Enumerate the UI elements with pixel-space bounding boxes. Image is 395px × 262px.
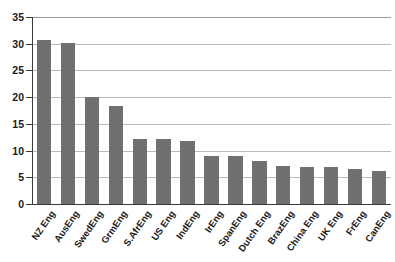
bar bbox=[348, 169, 362, 204]
y-tick-label: 0 bbox=[0, 199, 24, 210]
bar bbox=[252, 161, 266, 204]
bar bbox=[37, 40, 51, 204]
bar bbox=[372, 171, 386, 204]
bar bbox=[300, 167, 314, 204]
bar bbox=[276, 166, 290, 204]
y-tick-label: 10 bbox=[0, 145, 24, 156]
y-tick-label: 25 bbox=[0, 65, 24, 76]
y-tick-label: 30 bbox=[0, 38, 24, 49]
cropped-title-remnant bbox=[0, 0, 395, 6]
y-tick-label: 15 bbox=[0, 119, 24, 130]
bar-chart: 05101520253035 NZ EngAusEngSwedEngGrmEng… bbox=[0, 0, 395, 262]
x-tick-label: IndEng bbox=[174, 209, 200, 241]
x-axis-labels: NZ EngAusEngSwedEngGrmEngS.AfrEngUS EngI… bbox=[32, 205, 391, 262]
bar bbox=[61, 43, 75, 204]
bar bbox=[204, 156, 218, 204]
bar bbox=[133, 139, 147, 204]
bar bbox=[228, 156, 242, 204]
bar bbox=[156, 139, 170, 204]
y-tick-label: 5 bbox=[0, 172, 24, 183]
bar bbox=[180, 141, 194, 204]
y-tick-label: 20 bbox=[0, 92, 24, 103]
bar bbox=[85, 97, 99, 204]
x-tick-label: FrEng bbox=[344, 209, 368, 237]
bar-series bbox=[32, 17, 391, 204]
bar bbox=[324, 167, 338, 204]
bar bbox=[109, 106, 123, 204]
y-tick-label: 35 bbox=[0, 12, 24, 23]
x-tick-label: IrEng bbox=[203, 209, 225, 234]
